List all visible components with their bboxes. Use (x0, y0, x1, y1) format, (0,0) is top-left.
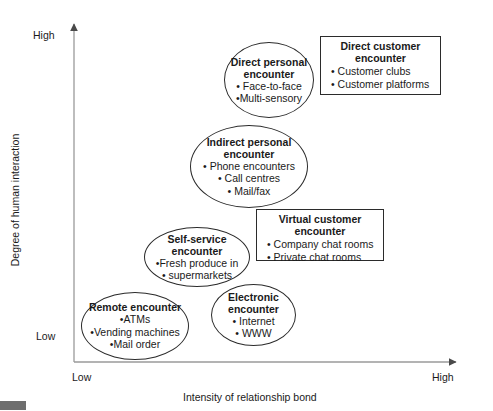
node-direct-personal-encounter[interactable]: Direct personal encounter Face-to-face M… (224, 42, 314, 118)
node-direct-customer-encounter[interactable]: Direct customer encounter Customer clubs… (320, 36, 441, 95)
list-item: Internet (232, 315, 274, 328)
diagram-canvas: Degree of human interaction High Low Low… (0, 0, 493, 411)
y-tick-low: Low (36, 330, 55, 342)
list-item: Vending machines (90, 326, 180, 339)
list-item: ATMs (90, 313, 180, 326)
node-item-list: Fresh produce in supermarkets (156, 257, 238, 282)
node-title: Self-service encounter (168, 233, 227, 257)
list-item: Fresh produce in (156, 257, 238, 270)
node-title: Indirect personal encounter (207, 136, 292, 160)
y-tick-high: High (33, 29, 55, 41)
y-axis-title: Degree of human interaction (9, 134, 21, 267)
node-item-list: Customer clubs Customer platforms (321, 65, 440, 90)
list-item: Customer platforms (331, 78, 440, 91)
node-title: Virtual customer encounter (257, 210, 383, 238)
node-item-list: Phone encounters Call centres Mail/fax (203, 160, 295, 198)
list-item: Private chat rooms (267, 251, 383, 264)
node-title: Electronic encounter (228, 291, 279, 315)
list-item: Company chat rooms (267, 238, 383, 251)
list-item: Call centres (203, 172, 295, 185)
y-axis-title-wrap: Degree of human interaction (6, 120, 24, 280)
x-tick-low: Low (72, 371, 91, 383)
node-electronic-encounter[interactable]: Electronic encounter Internet WWW (211, 284, 296, 346)
node-title: Direct personal encounter (231, 56, 307, 80)
node-title: Remote encounter (89, 301, 181, 313)
list-item-continuation: supermarkets (156, 269, 238, 282)
node-virtual-customer-encounter[interactable]: Virtual customer encounter Company chat … (256, 209, 384, 261)
node-title: Direct customer encounter (321, 37, 440, 65)
node-item-list: Company chat rooms Private chat rooms (257, 238, 383, 263)
list-item: Phone encounters (203, 160, 295, 173)
list-item: WWW (232, 327, 274, 340)
x-axis-title: Intensity of relationship bond (183, 391, 317, 403)
node-remote-encounter[interactable]: Remote encounter ATMs Vending machines M… (81, 292, 189, 360)
node-indirect-personal-encounter[interactable]: Indirect personal encounter Phone encoun… (190, 125, 308, 208)
list-item: Multi-sensory (236, 92, 302, 105)
node-self-service-encounter[interactable]: Self-service encounter Fresh produce in … (144, 227, 250, 287)
node-item-list: Internet WWW (232, 315, 274, 340)
list-item: Face-to-face (236, 80, 302, 93)
x-tick-high: High (432, 371, 454, 383)
node-item-list: Face-to-face Multi-sensory (236, 80, 302, 105)
list-item: Mail/fax (203, 185, 295, 198)
node-item-list: ATMs Vending machines Mail order (90, 313, 180, 351)
scan-artifact (0, 401, 26, 410)
list-item: Customer clubs (331, 65, 440, 78)
list-item: Mail order (90, 338, 180, 351)
